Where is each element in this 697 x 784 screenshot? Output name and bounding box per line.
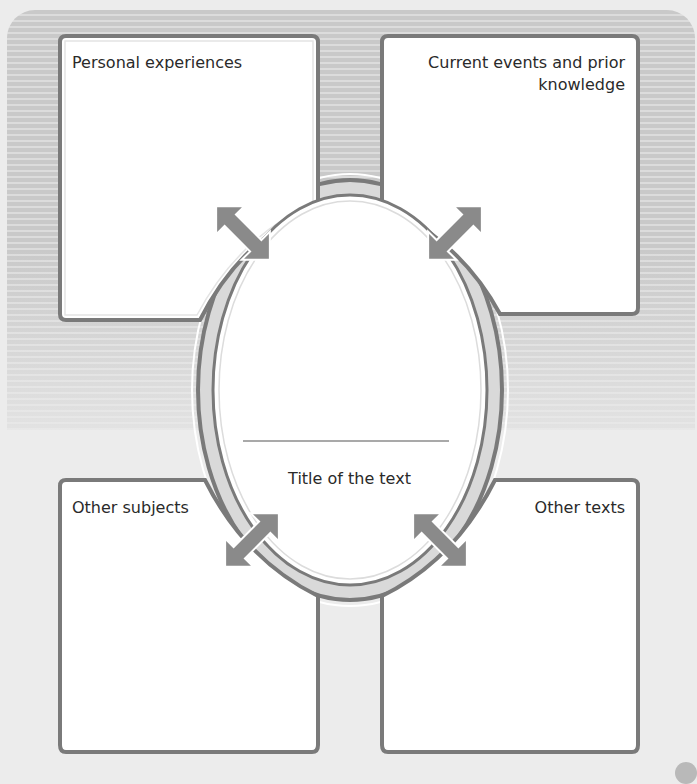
box-label-personal-experiences: Personal experiences	[72, 52, 242, 74]
box-label-line2: knowledge	[380, 74, 625, 96]
box-label-current-events: Current events and prior knowledge	[380, 52, 625, 96]
box-label-other-texts: Other texts	[440, 497, 625, 519]
box-label-other-subjects: Other subjects	[72, 497, 189, 519]
box-label-line1: Current events and prior	[380, 52, 625, 74]
page-marker	[675, 762, 697, 784]
center-label-title: Title of the text	[0, 468, 697, 490]
